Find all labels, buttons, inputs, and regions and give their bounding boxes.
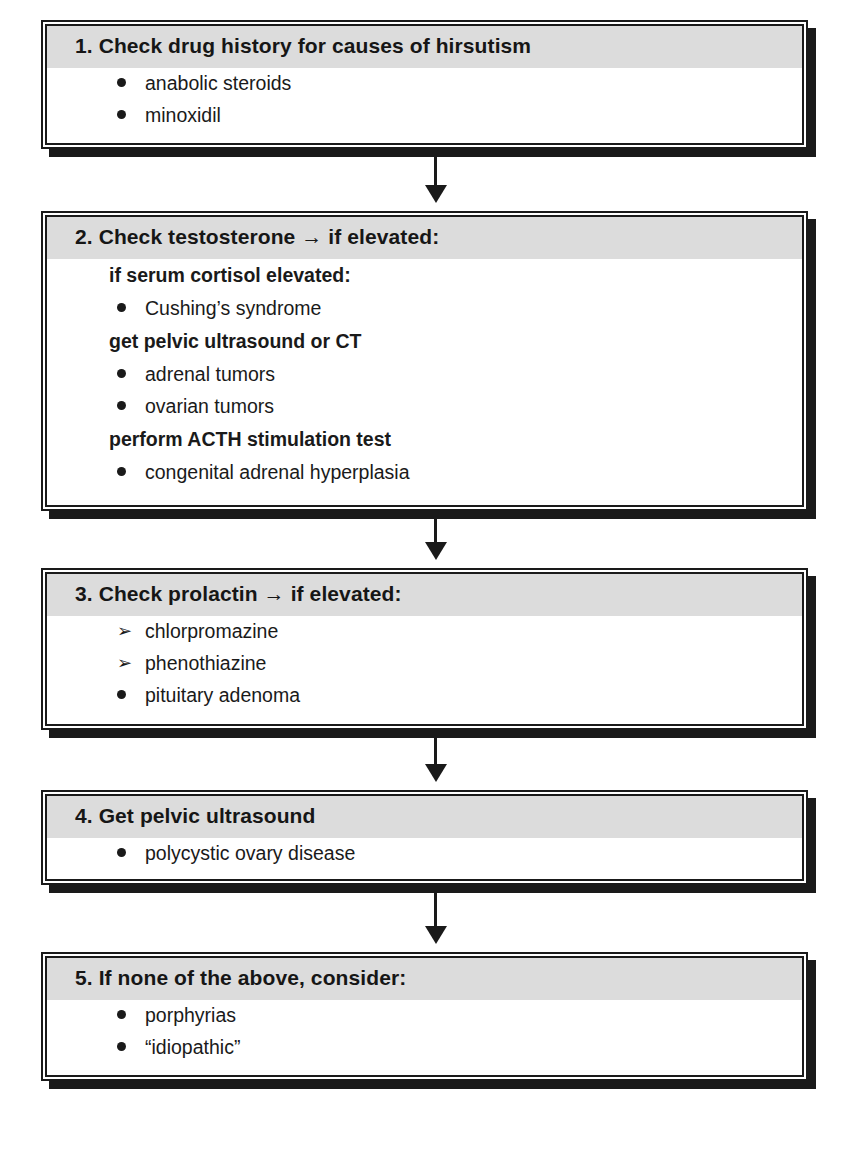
list-item: polycystic ovary disease — [109, 838, 802, 870]
step-subheading: perform ACTH stimulation test — [109, 423, 802, 457]
list-item-text: anabolic steroids — [145, 68, 291, 98]
step-title: 4. Get pelvic ultrasound — [47, 796, 802, 838]
bullet-dot — [117, 1010, 126, 1019]
list-item-text: Cushing’s syndrome — [145, 293, 321, 323]
step-title: 2. Check testosterone → if elevated: — [47, 217, 802, 259]
box-inner: 4. Get pelvic ultrasound polycystic ovar… — [45, 794, 804, 881]
list-item-text: minoxidil — [145, 100, 221, 130]
arrow-shaft — [434, 893, 437, 928]
arrowhead-bullet-icon: ➢ — [117, 648, 137, 678]
list-item-text: congenital adrenal hyperplasia — [145, 457, 410, 487]
bullet-dot — [117, 303, 126, 312]
bullet-icon — [117, 391, 137, 421]
arrow-down-icon — [425, 185, 447, 203]
step-box-3: 3. Check prolactin → if elevated: ➢chlor… — [41, 568, 808, 730]
bullet-icon — [117, 680, 137, 710]
list-item-text: ovarian tumors — [145, 391, 274, 421]
bullet-icon — [117, 293, 137, 323]
bullet-dot — [117, 401, 126, 410]
bullet-dot — [117, 78, 126, 87]
step-title: 3. Check prolactin → if elevated: — [47, 574, 802, 616]
list-item-text: chlorpromazine — [145, 616, 278, 646]
step-body: polycystic ovary disease — [47, 838, 802, 870]
list-item: pituitary adenoma — [109, 680, 802, 712]
connector-arrow-3-to-4 — [425, 738, 447, 782]
box-inner: 2. Check testosterone → if elevated: if … — [45, 215, 804, 507]
step-body: ➢chlorpromazine➢phenothiazinepituitary a… — [47, 616, 802, 712]
connector-arrow-4-to-5 — [425, 893, 447, 944]
connector-arrow-2-to-3 — [425, 519, 447, 560]
step-box-4: 4. Get pelvic ultrasound polycystic ovar… — [41, 790, 808, 885]
bullet-dot — [117, 848, 126, 857]
box-inner: 5. If none of the above, consider: porph… — [45, 956, 804, 1077]
arrow-shaft — [434, 157, 437, 187]
bullet-icon — [117, 838, 137, 868]
step-body: porphyrias“idiopathic” — [47, 1000, 802, 1064]
arrow-down-icon — [425, 926, 447, 944]
arrow-down-icon — [425, 764, 447, 782]
list-item: adrenal tumors — [109, 359, 802, 391]
bullet-dot — [117, 690, 126, 699]
box-inner: 1. Check drug history for causes of hirs… — [45, 24, 804, 145]
list-item: anabolic steroids — [109, 68, 802, 100]
arrow-down-icon — [425, 542, 447, 560]
step-body: if serum cortisol elevated:Cushing’s syn… — [47, 259, 802, 489]
arrow-shaft — [434, 738, 437, 766]
step-subheading: get pelvic ultrasound or CT — [109, 325, 802, 359]
bullet-icon — [117, 100, 137, 130]
arrowhead-bullet-icon: ➢ — [117, 616, 137, 646]
bullet-dot — [117, 1042, 126, 1051]
list-item: congenital adrenal hyperplasia — [109, 457, 802, 489]
connector-arrow-1-to-2 — [425, 157, 447, 203]
bullet-dot — [117, 467, 126, 476]
step-subheading: if serum cortisol elevated: — [109, 259, 802, 293]
bullet-dot — [117, 110, 126, 119]
bullet-icon — [117, 1032, 137, 1062]
step-body: anabolic steroidsminoxidil — [47, 68, 802, 132]
bullet-icon — [117, 359, 137, 389]
list-item-text: adrenal tumors — [145, 359, 275, 389]
step-box-5: 5. If none of the above, consider: porph… — [41, 952, 808, 1081]
list-item-text: “idiopathic” — [145, 1032, 240, 1062]
step-title: 1. Check drug history for causes of hirs… — [47, 26, 802, 68]
list-item-text: phenothiazine — [145, 648, 266, 678]
list-item-text: pituitary adenoma — [145, 680, 300, 710]
list-item-text: polycystic ovary disease — [145, 838, 355, 868]
list-item: Cushing’s syndrome — [109, 293, 802, 325]
step-box-2: 2. Check testosterone → if elevated: if … — [41, 211, 808, 511]
list-item-text: porphyrias — [145, 1000, 236, 1030]
bullet-icon — [117, 1000, 137, 1030]
step-box-1: 1. Check drug history for causes of hirs… — [41, 20, 808, 149]
list-item: ➢chlorpromazine — [109, 616, 802, 648]
list-item: ➢phenothiazine — [109, 648, 802, 680]
list-item: porphyrias — [109, 1000, 802, 1032]
box-inner: 3. Check prolactin → if elevated: ➢chlor… — [45, 572, 804, 726]
bullet-dot — [117, 369, 126, 378]
step-title: 5. If none of the above, consider: — [47, 958, 802, 1000]
list-item: ovarian tumors — [109, 391, 802, 423]
bullet-icon — [117, 68, 137, 98]
bullet-icon — [117, 457, 137, 487]
list-item: “idiopathic” — [109, 1032, 802, 1064]
arrow-shaft — [434, 519, 437, 544]
list-item: minoxidil — [109, 100, 802, 132]
